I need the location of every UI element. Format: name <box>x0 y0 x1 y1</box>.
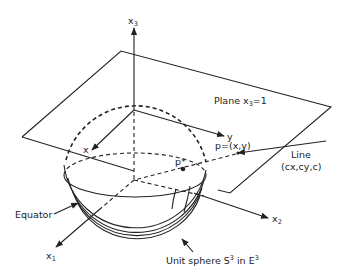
sphere-shading-2 <box>72 188 202 236</box>
equator-front <box>64 175 206 197</box>
sphere-pointer <box>182 239 193 252</box>
plane-label: Plane x3=1 <box>214 95 267 108</box>
sphere-lower <box>64 165 206 228</box>
equator-pointer <box>54 203 78 214</box>
x2-axis-plane-segment <box>22 137 134 171</box>
sphere-label: Unit sphere S3 in E3 <box>166 254 259 266</box>
projection-line <box>238 141 326 153</box>
meridian-hint-1 <box>172 189 176 209</box>
x2-axis-label: x2 <box>272 213 282 226</box>
line-coords-label: (cx,cy,c) <box>281 161 321 172</box>
p-star-point <box>181 167 186 172</box>
plane-y-axis <box>134 110 224 136</box>
x3-axis-label: x3 <box>128 15 138 28</box>
sphere-shading-1 <box>68 178 204 232</box>
p-point <box>236 151 239 154</box>
p-star-label: p* <box>175 156 186 167</box>
unit-sphere-projection-diagram: x3 Plane x3=1 y x p=(x,y) p* Line (cx,cy… <box>0 0 347 280</box>
x2-axis <box>194 193 268 218</box>
line-label: Line <box>291 149 311 160</box>
x-axis-label: x <box>83 144 89 155</box>
equator-label: Equator <box>15 209 52 220</box>
x1-axis <box>56 209 100 247</box>
x1-axis-label: x1 <box>46 250 56 263</box>
p-point-label: p=(x,y) <box>215 140 251 151</box>
plane-x-axis <box>92 110 134 150</box>
